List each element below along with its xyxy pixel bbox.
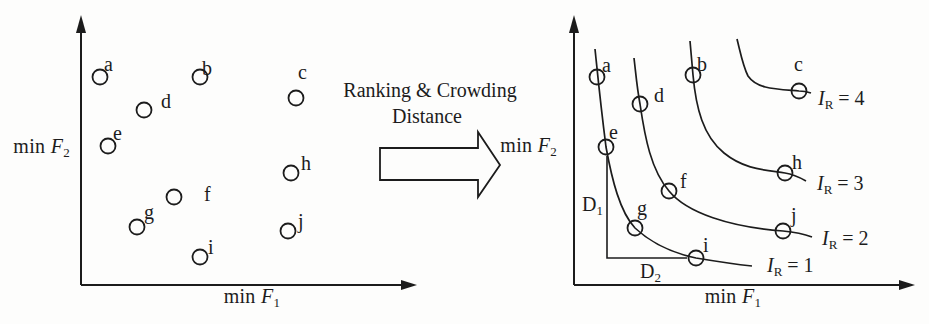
right-arrow-icon [380, 132, 500, 197]
point-label-f: f [680, 170, 687, 192]
right-plot-points: abcdefghij [590, 53, 807, 266]
point-i [193, 250, 208, 265]
point-j [281, 224, 296, 239]
point-label-h: h [792, 151, 802, 173]
point-d [137, 103, 152, 118]
crowding-distance-lines [607, 156, 687, 258]
right-plot: min F2 min F1 D1 D2 IR = 1 IR = 2 IR = 3… [500, 15, 915, 310]
right-x-axis-arrow-icon [899, 280, 915, 290]
front-curve-3 [690, 41, 806, 181]
point-h [284, 166, 299, 181]
right-y-axis-arrow-icon [569, 15, 579, 33]
point-label-a: a [602, 54, 611, 76]
point-label-g: g [144, 201, 154, 224]
point-label-e: e [113, 122, 122, 144]
point-label-g: g [637, 197, 647, 220]
point-label-j: j [297, 210, 304, 233]
point-label-c: c [794, 53, 803, 75]
d2-label: D2 [640, 260, 661, 285]
right-x-axis-label: min F1 [705, 285, 762, 310]
point-label-c: c [298, 61, 307, 83]
point-label-d: d [161, 90, 171, 112]
point-label-b: b [202, 57, 212, 79]
point-label-j: j [790, 204, 797, 227]
left-plot-points: abcdefghij [93, 53, 312, 265]
front-rank-label-2: IR = 2 [821, 227, 869, 252]
front-rank-label-1: IR = 1 [766, 254, 814, 279]
point-label-b: b [697, 53, 707, 75]
point-label-h: h [301, 152, 311, 174]
point-c [289, 91, 304, 106]
figure-canvas: min F2 min F1 abcdefghij Ranking & Crowd… [0, 0, 929, 324]
left-x-axis-arrow-icon [401, 280, 417, 290]
front-rank-label-4: IR = 4 [817, 87, 865, 112]
point-label-e: e [609, 121, 618, 143]
transform-arrow-group: Ranking & Crowding Distance [343, 79, 516, 197]
point-f [167, 190, 182, 205]
point-label-a: a [104, 53, 113, 75]
d1-label: D1 [582, 193, 603, 218]
left-x-axis-label: min F1 [224, 285, 281, 310]
right-y-axis-label: min F2 [500, 134, 557, 159]
point-g [130, 220, 145, 235]
left-y-axis-label: min F2 [13, 135, 70, 160]
left-plot: min F2 min F1 abcdefghij [13, 15, 417, 310]
front-rank-label-3: IR = 3 [816, 172, 864, 197]
point-label-f: f [204, 183, 211, 205]
transform-label-line1: Ranking & Crowding [343, 79, 516, 102]
point-label-i: i [703, 234, 709, 256]
point-label-d: d [654, 84, 664, 106]
left-y-axis-arrow-icon [76, 15, 86, 33]
front-curve-1 [595, 49, 752, 266]
point-label-i: i [208, 236, 214, 258]
transform-label-line2: Distance [392, 105, 462, 127]
diagram-svg: min F2 min F1 abcdefghij Ranking & Crowd… [0, 0, 929, 324]
